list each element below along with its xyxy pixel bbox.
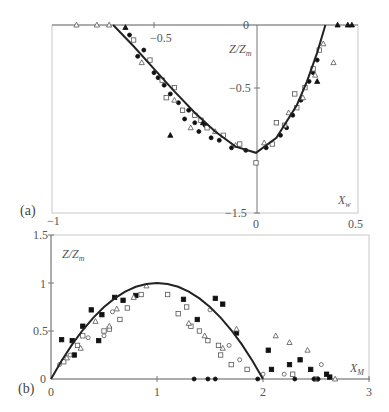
data-point [162, 83, 166, 87]
data-point [107, 323, 112, 328]
data-point [293, 377, 297, 381]
data-point [118, 317, 122, 321]
data-point [165, 292, 169, 296]
data-point [217, 138, 221, 142]
y-tick-label: 0 [40, 372, 46, 386]
data-point [290, 372, 294, 376]
data-point [197, 130, 201, 134]
data-point [234, 326, 239, 331]
data-point [229, 362, 233, 366]
x-tick-label: 0.5 [348, 217, 363, 231]
data-point [176, 312, 180, 316]
x-tick-label: 0 [48, 385, 54, 399]
data-point [305, 347, 310, 352]
data-point [172, 97, 177, 102]
data-point [328, 375, 332, 379]
panel-a: −0.5 0 −0.5 −1.5 −1 0 0.5 Z/Zm Xw (a) [20, 18, 363, 231]
panel-b: 1.5 1 0.5 0 0 1 2 3 Z/Zm XM (b) [18, 228, 372, 399]
data-point [139, 292, 143, 296]
data-point [142, 48, 146, 52]
data-point [227, 343, 231, 347]
data-point [298, 358, 302, 362]
x-tick-label: −1 [47, 214, 60, 228]
figure: −0.5 0 −0.5 −1.5 −1 0 0.5 Z/Zm Xw (a) 1.… [0, 0, 389, 412]
data-point [237, 142, 241, 146]
data-point [168, 92, 172, 96]
y-tick-label: −0.5 [229, 81, 251, 95]
data-point [86, 336, 90, 340]
panel-a-frame [52, 25, 358, 213]
data-point [245, 367, 249, 371]
y-axis-label: Z/Zm [62, 247, 85, 263]
data-point [213, 377, 217, 381]
x-tick-label: 3 [366, 385, 372, 399]
data-point [195, 317, 199, 321]
x-axis-label: XM [349, 361, 365, 377]
data-point [287, 340, 292, 345]
data-point [176, 101, 180, 105]
data-point [125, 306, 129, 310]
data-point [321, 41, 326, 46]
y-axis-label: Z/Zm [229, 42, 252, 58]
x-tick-label: 1 [154, 385, 160, 399]
data-point [230, 146, 234, 150]
x-tick-label: −0.5 [150, 31, 172, 45]
data-point [89, 308, 93, 312]
data-point [183, 117, 187, 121]
data-point [287, 362, 291, 366]
data-point [102, 329, 106, 333]
data-point [312, 377, 316, 381]
data-point [273, 333, 278, 338]
data-point [121, 298, 125, 302]
x-tick-label: 2 [260, 385, 266, 399]
data-point [131, 38, 135, 42]
panel-a-model-curve [113, 25, 325, 153]
data-point [309, 367, 313, 371]
data-point [139, 60, 144, 65]
data-point [216, 343, 220, 347]
data-point [254, 161, 258, 165]
x-tick-label: 0 [253, 217, 259, 231]
panel-label: (a) [20, 203, 36, 219]
data-point [168, 132, 173, 137]
data-point [188, 125, 193, 130]
y-tick-label: 0 [243, 18, 249, 32]
data-point [206, 338, 210, 342]
data-point [206, 377, 210, 381]
data-point [319, 363, 323, 367]
data-point [315, 79, 320, 84]
data-point [97, 338, 101, 342]
data-point [59, 337, 63, 341]
data-point [221, 302, 225, 306]
data-point [197, 329, 201, 333]
data-point [238, 358, 242, 362]
data-point [164, 95, 168, 99]
data-point [136, 54, 140, 58]
data-point [102, 334, 106, 338]
data-point [331, 60, 336, 65]
data-point [114, 306, 119, 311]
data-point [269, 367, 273, 371]
data-point [184, 305, 188, 309]
panel-a-scatter-points [74, 22, 355, 165]
data-point [181, 297, 185, 301]
data-point [81, 334, 85, 338]
data-point [209, 136, 213, 140]
x-axis-label: Xw [337, 193, 351, 209]
data-point [282, 372, 286, 376]
y-tick-label: 1 [40, 277, 46, 291]
data-point [293, 92, 297, 96]
data-point [266, 348, 270, 352]
data-point [262, 140, 267, 145]
y-tick-label: −1.5 [225, 206, 247, 220]
data-point [256, 377, 260, 381]
data-point [180, 108, 184, 112]
data-point [72, 353, 76, 357]
data-point [100, 312, 104, 316]
data-point [186, 321, 191, 326]
data-point [202, 333, 207, 338]
y-tick-label: 1.5 [33, 228, 48, 242]
data-point [316, 377, 320, 381]
data-point [75, 343, 79, 347]
y-tick-label: 0.5 [33, 324, 48, 338]
